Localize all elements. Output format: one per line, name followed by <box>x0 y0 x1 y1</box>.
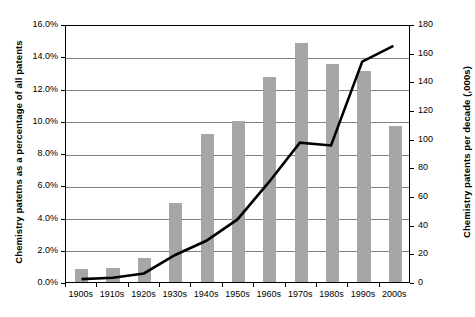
x-axis-tickmark <box>222 283 223 287</box>
y-axis-right-tickmark <box>410 168 414 169</box>
x-axis-tickmark <box>128 283 129 287</box>
y-axis-left-tick-label: 0.0% <box>18 278 58 287</box>
plot-area <box>65 25 410 283</box>
y-axis-right-tickmark <box>410 82 414 83</box>
x-axis-tick-label: 2000s <box>371 290 417 299</box>
x-axis-tickmark <box>253 283 254 287</box>
y-axis-right-tickmark <box>410 197 414 198</box>
line-path <box>82 46 394 279</box>
y-axis-right-tickmark <box>410 283 414 284</box>
y-axis-left-tick-label: 10.0% <box>18 117 58 126</box>
x-axis-tickmark <box>285 283 286 287</box>
x-axis-tickmark <box>347 283 348 287</box>
x-axis-tickmark <box>96 283 97 287</box>
x-axis-tickmark <box>159 283 160 287</box>
x-axis-tickmark <box>65 283 66 287</box>
y-axis-right-tickmark <box>410 254 414 255</box>
y-axis-right-tick-label: 140 <box>418 77 454 86</box>
x-axis-tickmark <box>379 283 380 287</box>
y-axis-right-tick-label: 0 <box>418 278 454 287</box>
y-axis-right-tickmark <box>410 111 414 112</box>
y-axis-right-tick-label: 160 <box>418 49 454 58</box>
y-axis-right-tickmark <box>410 226 414 227</box>
y-axis-right-tick-label: 20 <box>418 249 454 258</box>
y-axis-left-tick-label: 2.0% <box>18 246 58 255</box>
y-axis-right-title: Chemistry patents per decade (,000s) <box>461 20 475 284</box>
y-axis-left-tick-label: 14.0% <box>18 52 58 61</box>
chemistry-patents-chart: Chemistry patetns as a percentage of all… <box>0 0 475 317</box>
y-axis-right-tick-label: 180 <box>418 20 454 29</box>
y-axis-left-tick-label: 8.0% <box>18 149 58 158</box>
y-axis-right-tick-label: 80 <box>418 163 454 172</box>
x-axis-tickmark <box>190 283 191 287</box>
y-axis-left-tick-label: 6.0% <box>18 181 58 190</box>
y-axis-right-tick-label: 100 <box>418 135 454 144</box>
x-axis-tickmark <box>316 283 317 287</box>
y-axis-right-tickmark <box>410 54 414 55</box>
line-series <box>66 26 409 282</box>
y-axis-left-tick-label: 16.0% <box>18 20 58 29</box>
y-axis-right-tick-label: 40 <box>418 221 454 230</box>
y-axis-left-tick-label: 4.0% <box>18 214 58 223</box>
y-axis-left-tick-label: 12.0% <box>18 85 58 94</box>
y-axis-right-tickmark <box>410 140 414 141</box>
y-axis-right-tick-label: 120 <box>418 106 454 115</box>
y-axis-right-tick-label: 60 <box>418 192 454 201</box>
y-axis-right-tickmark <box>410 25 414 26</box>
